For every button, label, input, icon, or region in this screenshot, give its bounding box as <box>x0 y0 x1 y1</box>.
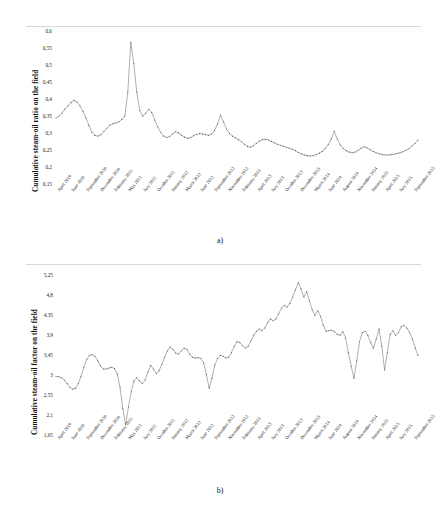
data-point <box>82 111 83 112</box>
data-point <box>362 332 363 333</box>
data-point <box>226 128 227 129</box>
data-point <box>147 372 148 373</box>
data-point <box>200 358 201 359</box>
data-point <box>401 326 402 327</box>
data-point <box>379 153 380 154</box>
data-point <box>373 151 374 152</box>
data-point <box>367 335 368 336</box>
data-point <box>292 149 293 150</box>
data-point <box>406 327 407 328</box>
data-point <box>361 148 362 149</box>
data-point <box>358 150 359 151</box>
data-point <box>337 138 338 139</box>
panel-b-plot <box>56 272 418 436</box>
data-point <box>256 331 257 332</box>
panel-b-ytick: 2,1 <box>36 413 53 418</box>
data-point <box>70 102 71 103</box>
panel-b-caption: b) <box>0 486 440 495</box>
data-point <box>262 139 263 140</box>
data-point <box>209 388 210 389</box>
data-point <box>298 282 299 283</box>
data-point <box>76 101 77 102</box>
data-point <box>100 134 101 135</box>
panel-a-caption: a) <box>0 236 440 245</box>
data-point <box>61 377 62 378</box>
panel-b-top-rule <box>26 264 421 265</box>
data-point <box>322 151 323 152</box>
data-point <box>124 116 125 117</box>
data-point <box>160 132 161 133</box>
data-point <box>178 353 179 354</box>
data-point <box>67 105 68 106</box>
data-point <box>111 367 112 368</box>
data-point <box>390 334 391 335</box>
data-point <box>334 131 335 132</box>
data-point <box>172 349 173 350</box>
data-point <box>328 144 329 145</box>
data-point <box>364 146 365 147</box>
panel-a-ytick: 0,15 <box>38 182 52 187</box>
data-point <box>250 147 251 148</box>
data-point <box>303 297 304 298</box>
data-point <box>211 133 212 134</box>
data-point <box>148 109 149 110</box>
data-point <box>378 328 379 329</box>
data-point <box>108 368 109 369</box>
data-point <box>214 365 215 366</box>
data-point <box>127 91 128 92</box>
data-point <box>376 338 377 339</box>
data-point <box>284 305 285 306</box>
data-point <box>417 355 418 356</box>
panel-a-ytick: 0,3 <box>38 131 52 136</box>
data-point <box>326 331 327 332</box>
data-point <box>172 133 173 134</box>
data-point <box>156 373 157 374</box>
data-point <box>287 307 288 308</box>
data-point <box>79 105 80 106</box>
data-point <box>352 152 353 153</box>
panel-a-ytick: 0,25 <box>38 148 52 153</box>
data-point <box>192 357 193 358</box>
data-point <box>253 335 254 336</box>
data-point <box>150 365 151 366</box>
data-point <box>265 139 266 140</box>
data-point <box>133 63 134 64</box>
data-point <box>94 135 95 136</box>
data-point <box>186 349 187 350</box>
data-point <box>259 328 260 329</box>
data-point <box>356 360 357 361</box>
data-point <box>411 145 412 146</box>
data-point <box>317 310 318 311</box>
data-point <box>283 146 284 147</box>
data-point <box>392 330 393 331</box>
data-point <box>278 313 279 314</box>
data-point <box>130 42 131 43</box>
data-point <box>314 315 315 316</box>
data-point <box>214 130 215 131</box>
data-point <box>220 115 221 116</box>
data-point <box>64 109 65 110</box>
data-point <box>106 368 107 369</box>
data-point <box>164 357 165 358</box>
data-point <box>73 100 74 101</box>
panel-a-plot <box>56 28 418 188</box>
data-point <box>316 154 317 155</box>
data-point <box>343 148 344 149</box>
data-point <box>206 374 207 375</box>
data-point <box>281 307 282 308</box>
data-point <box>325 148 326 149</box>
data-point <box>342 331 343 332</box>
data-point <box>232 136 233 137</box>
data-point <box>367 147 368 148</box>
panel-b-ytick: 3 <box>36 373 53 378</box>
data-point <box>136 377 137 378</box>
data-point <box>244 144 245 145</box>
data-point <box>295 150 296 151</box>
data-point <box>417 139 418 140</box>
data-point <box>139 380 140 381</box>
data-point <box>181 135 182 136</box>
data-point <box>121 119 122 120</box>
data-point <box>275 318 276 319</box>
data-point <box>273 320 274 321</box>
data-point <box>220 355 221 356</box>
